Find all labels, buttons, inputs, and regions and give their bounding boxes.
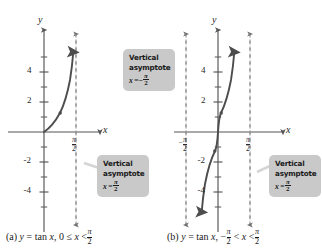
panel-a-xtick-denominator: 2 [72,144,76,153]
panel-b: y x 4 2 -2 -4 − π 2 π 2 Vertical asympto… [161,0,322,252]
caption-a-frac-den: 2 [87,237,91,246]
panel-b-callout-neg-line2: asymptote [129,63,170,72]
caption-b-frac-pos-den: 2 [255,237,259,246]
panel-a-callout-vertical-asymptote: Vertical asymptote x = π 2 [97,155,149,197]
panel-a-callout-eq-fraction: π 2 [113,179,119,194]
panel-b-callout-pos-line1: Vertical [275,159,304,168]
panel-b-ytick-neg2: -2 [198,155,206,165]
panel-a-x-axis-label: x [103,124,107,135]
panel-b-xtick-numerator: π [246,136,250,144]
panel-b-marked-point-pos [220,111,223,114]
panel-b-callout-pos-eq-num: π [285,179,291,186]
panel-b-callout-pos-eq-var: x [275,182,279,191]
caption-b-frac-neg-den: 2 [227,237,231,246]
caption-b-prefix: (b) [167,231,179,242]
panel-a-ytick-neg4: -4 [24,185,32,195]
panel-a-y-axis-label: y [38,14,42,25]
panel-a-callout-line2: asymptote [103,169,144,178]
panel-b-callout-pos-eq-rel: = [280,182,284,191]
panel-b-callout-neg-eq-var: x [129,76,133,85]
panel-b-ytick-2: 2 [201,95,206,105]
caption-b-frac-pos-num: π [255,228,259,236]
panel-b-xtick-neg-pi-over-2: − π 2 [183,136,187,152]
panel-b-callout-neg-eq-den: 2 [143,79,149,87]
panel-a-callout-eq-rel: = [108,182,112,191]
panel-b-xtick-neg-denominator: 2 [183,144,187,153]
panel-a-tan-curve [44,52,73,132]
panel-a-marked-point [59,111,62,114]
panel-a-ytick-4: 4 [27,65,32,75]
panel-a-ytick-2: 2 [27,95,32,105]
panel-b-xtick-denominator: 2 [246,144,250,153]
panel-a-callout-equation: x = π 2 [103,179,143,194]
panel-a: y x 4 2 -2 -4 π 2 Vertical asymptote x =… [0,0,161,252]
panel-a-callout-eq-num: π [113,179,119,186]
panel-b-callout-pos-equation: x = π 2 [275,179,315,194]
panel-b-y-axis-label: y [212,14,216,25]
caption-b-frac-neg-num: π [227,228,231,236]
panel-a-callout-eq-var: x [103,182,107,191]
panel-b-plot [161,0,322,252]
panel-b-xtick-pi-over-2: π 2 [246,136,250,152]
panel-b-xtick-neg-numerator: π [183,136,187,144]
panel-a-xtick-numerator: π [72,136,76,144]
panel-b-ytick-4: 4 [201,65,206,75]
tangent-figure: y x 4 2 -2 -4 π 2 Vertical asymptote x =… [0,0,322,252]
panel-a-plot [0,0,161,252]
panel-b-callout-vertical-asymptote-neg: Vertical asymptote x =− π 2 [123,49,175,91]
panel-b-callout-neg-equation: x =− π 2 [129,73,169,88]
panel-b-callout-neg-eq-fraction: π 2 [143,73,149,88]
caption-a: (a) y = tan x, 0 ≤ x <π2 [6,228,92,246]
panel-b-callout-neg-eq-num: π [143,73,149,80]
caption-a-fraction: π2 [87,228,91,246]
caption-b-fraction-pos: π2 [255,228,259,246]
panel-b-callout-neg-line1: Vertical [129,53,158,62]
panel-a-ytick-neg2: -2 [24,155,32,165]
panel-b-x-axis-label: x [286,124,290,135]
panel-a-callout-line1: Vertical [103,159,132,168]
panel-b-callout-neg-eq-sign: − [138,76,142,85]
caption-a-prefix: (a) [6,231,17,242]
panel-b-callout-vertical-asymptote-pos: Vertical asymptote x = π 2 [269,155,321,197]
panel-b-xtick-neg-sign: − [179,139,183,147]
panel-b-callout-pos-eq-den: 2 [285,185,291,193]
caption-b: (b) y = tan x, −π2 < x <π2 [167,228,260,246]
panel-b-callout-pos-line2: asymptote [275,169,316,178]
panel-a-xtick-pi-over-2: π 2 [72,136,76,152]
caption-a-frac-num: π [87,228,91,236]
panel-b-ytick-neg4: -4 [198,185,206,195]
panel-b-callout-pos-eq-fraction: π 2 [285,179,291,194]
caption-b-fraction-neg: π2 [227,228,231,246]
panel-a-callout-eq-den: 2 [113,185,119,193]
panel-b-marked-point-neg [213,149,216,152]
